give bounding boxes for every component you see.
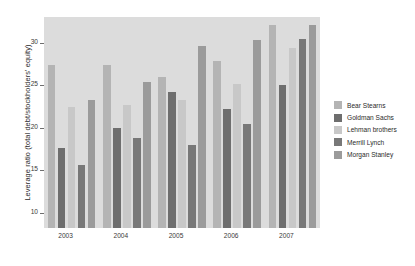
legend: Bear StearnsGoldman SachsLehman brothers… [334,99,414,161]
bar [103,65,111,228]
bar [68,107,76,228]
plot-area [44,17,320,228]
bar [158,77,166,228]
bar [198,46,206,228]
legend-item: Bear Stearns [334,99,414,111]
bar [168,92,176,228]
bar [279,85,287,228]
bar [178,100,186,228]
bar [269,25,277,228]
legend-item: Merrill Lynch [334,136,414,148]
legend-label: Goldman Sachs [347,114,394,121]
legend-swatch [334,138,342,146]
legend-item: Goldman Sachs [334,111,414,123]
legend-swatch [334,101,342,109]
bar [233,84,241,228]
bar [253,40,261,228]
bar [113,128,121,228]
legend-swatch [334,151,342,159]
bar [309,25,317,228]
bar [213,61,221,228]
legend-swatch [334,126,342,134]
bar-group [265,17,320,228]
legend-label: Morgan Stanley [347,151,393,158]
legend-item: Morgan Stanley [334,149,414,161]
legend-label: Bear Stearns [347,102,385,109]
x-axis-tick-label: 2003 [58,232,73,239]
bar [88,100,96,228]
legend-swatch [334,114,342,122]
bar [243,124,251,228]
bar [299,39,307,228]
x-axis-tick-label: 2004 [113,232,128,239]
bar [78,165,86,228]
y-axis-tick-label: 25 [31,80,38,87]
bar-group [99,17,154,228]
y-axis-tick-label: 30 [31,38,38,45]
bar [289,48,297,228]
x-axis-tick-label: 2005 [169,232,184,239]
y-axis: 1015202530 [0,0,44,266]
x-axis: 20032004200520062007 [44,228,320,248]
bar [223,109,231,228]
bar-group [154,17,209,228]
bar-group [210,17,265,228]
bar [123,105,131,228]
x-axis-tick-label: 2007 [279,232,294,239]
legend-item: Lehman brothers [334,124,414,136]
bar [188,145,196,228]
legend-label: Lehman brothers [347,126,397,133]
bar [48,65,56,228]
bar [143,82,151,228]
y-axis-tick-label: 10 [31,208,38,215]
y-axis-tick-label: 20 [31,123,38,130]
x-axis-tick-label: 2006 [224,232,239,239]
bar [133,138,141,228]
bar [58,148,66,228]
bar-group [44,17,99,228]
y-axis-tick-label: 15 [31,165,38,172]
leverage-ratio-bar-chart: Leverage ratio (total debt/stockholders'… [0,0,415,266]
legend-label: Merrill Lynch [347,139,384,146]
